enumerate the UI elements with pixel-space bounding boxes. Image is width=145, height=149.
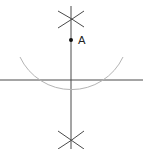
point-a-label: A <box>78 35 86 46</box>
point-a <box>69 38 73 42</box>
construction-diagram <box>0 0 145 149</box>
